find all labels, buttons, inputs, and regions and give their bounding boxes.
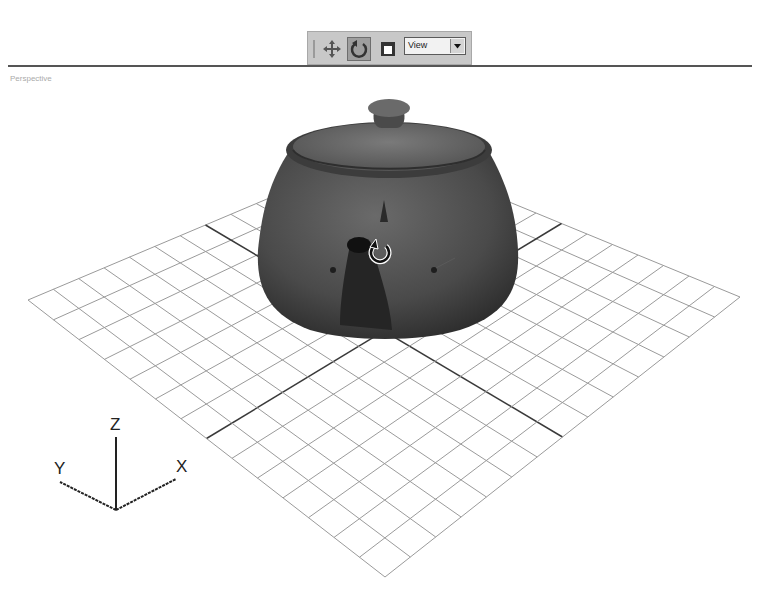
move-tool-button[interactable]: [320, 37, 344, 61]
move-icon: [322, 39, 342, 59]
axis-y-label: Y: [54, 459, 65, 478]
viewport-label[interactable]: Perspective: [10, 74, 52, 83]
toolbar-grip[interactable]: [313, 40, 315, 58]
chevron-down-icon[interactable]: [450, 39, 464, 53]
display-tool-button[interactable]: [376, 37, 400, 61]
viewport-top-border: [8, 65, 752, 67]
axis-tripod: [60, 437, 176, 510]
viewport-toolbar: View: [307, 31, 472, 65]
perspective-viewport[interactable]: Z Y X: [0, 0, 778, 600]
coordinate-system-select[interactable]: View: [404, 37, 466, 55]
axis-x-label: X: [176, 457, 187, 476]
rotate-tool-button[interactable]: [347, 37, 371, 61]
display-icon: [380, 41, 396, 57]
gizmo-y-handle[interactable]: [330, 267, 336, 273]
rotate-icon: [349, 39, 369, 59]
axis-z-label: Z: [110, 415, 120, 434]
coordinate-system-value: View: [408, 40, 427, 50]
teapot-object[interactable]: [258, 99, 518, 339]
